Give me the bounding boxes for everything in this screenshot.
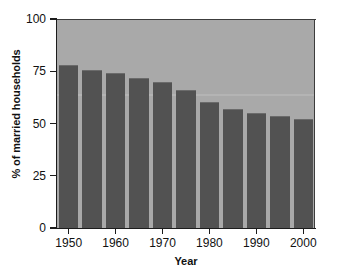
bar (82, 70, 101, 228)
y-axis-tick-label: 0 (0, 222, 46, 234)
y-axis-tick (50, 123, 57, 124)
x-axis-line (56, 228, 316, 229)
bar (176, 90, 195, 228)
bar (223, 109, 242, 228)
x-axis-title: Year (57, 255, 315, 267)
plot-top-border (56, 19, 316, 20)
x-axis-tick (115, 228, 116, 234)
bar-chart-figure: % of married households 0255075100 19501… (0, 0, 343, 275)
y-axis-tick-label: 100 (0, 13, 46, 25)
bar (270, 116, 289, 228)
y-axis-tick (50, 18, 57, 19)
bar (153, 82, 172, 228)
x-axis-tick (256, 228, 257, 234)
bar (247, 113, 266, 228)
bar (200, 102, 219, 228)
x-axis-tick (209, 228, 210, 234)
bar (106, 73, 125, 228)
y-axis-tick (50, 71, 57, 72)
y-axis-title: % of married households (10, 14, 22, 214)
y-axis-tick-label: 50 (0, 118, 46, 130)
y-axis-tick (50, 227, 57, 228)
y-axis-tick-label: 25 (0, 170, 46, 182)
x-axis-tick (162, 228, 163, 234)
x-axis-tick (68, 228, 69, 234)
y-axis-tick-label: 75 (0, 65, 46, 77)
bar (59, 65, 78, 228)
x-axis-tick (303, 228, 304, 234)
y-axis-tick (50, 175, 57, 176)
bar (294, 119, 313, 228)
x-axis-tick-label: 2000 (273, 236, 333, 250)
bar (129, 78, 148, 228)
